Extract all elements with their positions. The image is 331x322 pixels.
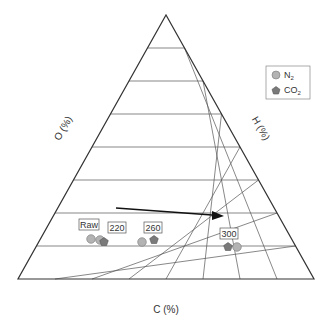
series-n2 [87,235,242,252]
point-n2-260 [138,238,147,247]
annotation-220: 220 [108,222,126,233]
annotation-raw: Raw [79,219,99,230]
legend-n2-marker [272,71,280,79]
svg-text:220: 220 [109,223,124,233]
c-axis-label: C (%) [153,304,179,315]
annotation-300: 300 [220,228,238,239]
ternary-chart: C (%) H (%) O (%) Raw 220 260 300 N2 [0,0,331,322]
legend: N2 CO2 [266,66,310,99]
series-co2 [100,236,233,251]
trend-arrow [116,208,224,220]
svg-text:300: 300 [221,229,236,239]
annotation-260: 260 [144,222,162,233]
point-n2-300 [233,243,242,252]
point-co2-300 [224,243,233,251]
svg-text:260: 260 [145,223,160,233]
svg-text:Raw: Raw [80,220,99,230]
point-co2-260 [150,236,159,244]
o-axis-label: O (%) [52,114,75,142]
h-axis-label: H (%) [250,114,272,142]
grid-lines [37,48,296,279]
point-n2-raw [87,235,96,244]
